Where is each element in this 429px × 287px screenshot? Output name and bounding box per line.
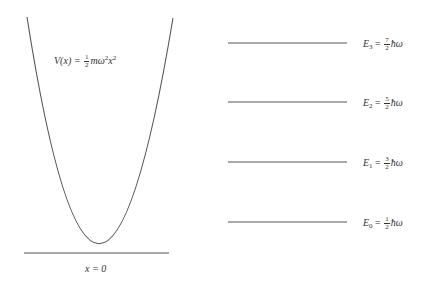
hbar-omega: ħω	[391, 38, 403, 49]
fraction: 12	[384, 216, 390, 231]
potential-formula: V(x) = 12mω2x2	[54, 52, 116, 69]
e-index: 3	[369, 43, 373, 51]
e-index: 1	[369, 162, 373, 170]
fraction-half: 12	[84, 54, 90, 69]
frac-den: 2	[384, 164, 390, 171]
hbar-omega: ħω	[391, 217, 403, 228]
energy-label-0: E0 = 12ħω	[363, 216, 403, 232]
fraction: 72	[384, 37, 390, 52]
frac-den: 2	[384, 45, 390, 52]
formula-m-omega: mω	[90, 55, 104, 66]
e-index: 0	[369, 222, 373, 230]
equals: =	[375, 157, 381, 168]
origin-label: x = 0	[85, 263, 106, 275]
energy-label-2: E2 = 52ħω	[363, 96, 403, 112]
e-index: 2	[369, 102, 373, 110]
frac-den: 2	[384, 104, 390, 111]
equals: =	[375, 217, 381, 228]
fraction: 52	[384, 96, 390, 111]
frac-den: 2	[384, 224, 390, 231]
energy-label-3: E3 = 72ħω	[363, 37, 403, 53]
potential-parabola	[27, 17, 173, 244]
hbar-omega: ħω	[391, 97, 403, 108]
fraction: 32	[384, 156, 390, 171]
exp-2: 2	[113, 54, 117, 62]
frac-den: 2	[84, 62, 90, 69]
formula-lhs: V(x) =	[54, 55, 80, 66]
equals: =	[375, 38, 381, 49]
hbar-omega: ħω	[391, 157, 403, 168]
equals: =	[375, 97, 381, 108]
energy-label-1: E1 = 32ħω	[363, 156, 403, 172]
